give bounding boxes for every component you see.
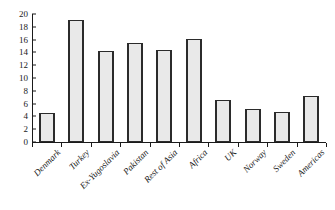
x-axis-tick-mark — [32, 143, 33, 147]
bar-slot — [208, 14, 237, 142]
bar[interactable] — [303, 96, 319, 142]
bar-slot — [238, 14, 267, 142]
x-axis-tick-mark — [120, 143, 121, 147]
x-axis-label: Africa — [187, 148, 209, 170]
y-axis-tick-label: 0 — [24, 138, 33, 147]
x-axis-tick-mark — [61, 143, 62, 147]
y-axis-tick-label: 18 — [19, 22, 32, 31]
y-axis-tick-label: 4 — [24, 112, 33, 121]
x-axis-tick-mark — [208, 143, 209, 147]
bar[interactable] — [245, 109, 261, 142]
x-axis-tick-mark — [150, 143, 151, 147]
bar[interactable] — [274, 112, 290, 142]
x-axis-tick-mark — [179, 143, 180, 147]
bar-chart: 02468101214161820 DenmarkTurkeyEx-Yugosl… — [0, 0, 335, 210]
bar[interactable] — [68, 20, 84, 142]
bar-slot — [91, 14, 120, 142]
x-axis-labels: DenmarkTurkeyEx-YugoslaviaPakistanRest o… — [32, 148, 326, 208]
x-axis-tick-mark — [267, 143, 268, 147]
x-axis-label: Americas — [296, 148, 326, 178]
bar[interactable] — [186, 39, 202, 142]
bar[interactable] — [98, 51, 114, 142]
y-axis-tick-label: 8 — [24, 86, 33, 95]
x-axis-tick-mark — [238, 143, 239, 147]
x-axis-label: Turkey — [68, 148, 92, 172]
y-axis-tick-label: 12 — [19, 61, 32, 70]
y-axis-tick-label: 14 — [19, 48, 32, 57]
bar-slot — [179, 14, 208, 142]
x-axis-label: Denmark — [32, 148, 62, 178]
y-axis-tick-label: 10 — [19, 74, 32, 83]
bar[interactable] — [127, 43, 143, 142]
x-axis-tick-mark — [297, 143, 298, 147]
bar[interactable] — [156, 50, 172, 142]
x-axis-tick-mark — [326, 143, 327, 147]
bar-slot — [61, 14, 90, 142]
y-axis-tick-label: 20 — [19, 10, 32, 19]
y-axis-tick-label: 6 — [24, 99, 33, 108]
x-axis-label: UK — [223, 148, 238, 163]
x-axis-label: Sweden — [271, 148, 297, 174]
bar[interactable] — [39, 113, 55, 142]
bar-series — [32, 14, 326, 142]
x-axis-label: Norway — [241, 148, 268, 175]
y-axis-tick-label: 2 — [24, 125, 33, 134]
bar-slot — [32, 14, 61, 142]
y-axis-tick-label: 16 — [19, 35, 32, 44]
bar[interactable] — [215, 100, 231, 142]
x-axis-tick-mark — [91, 143, 92, 147]
bar-slot — [267, 14, 296, 142]
bar-slot — [150, 14, 179, 142]
bar-slot — [120, 14, 149, 142]
bar-slot — [297, 14, 326, 142]
